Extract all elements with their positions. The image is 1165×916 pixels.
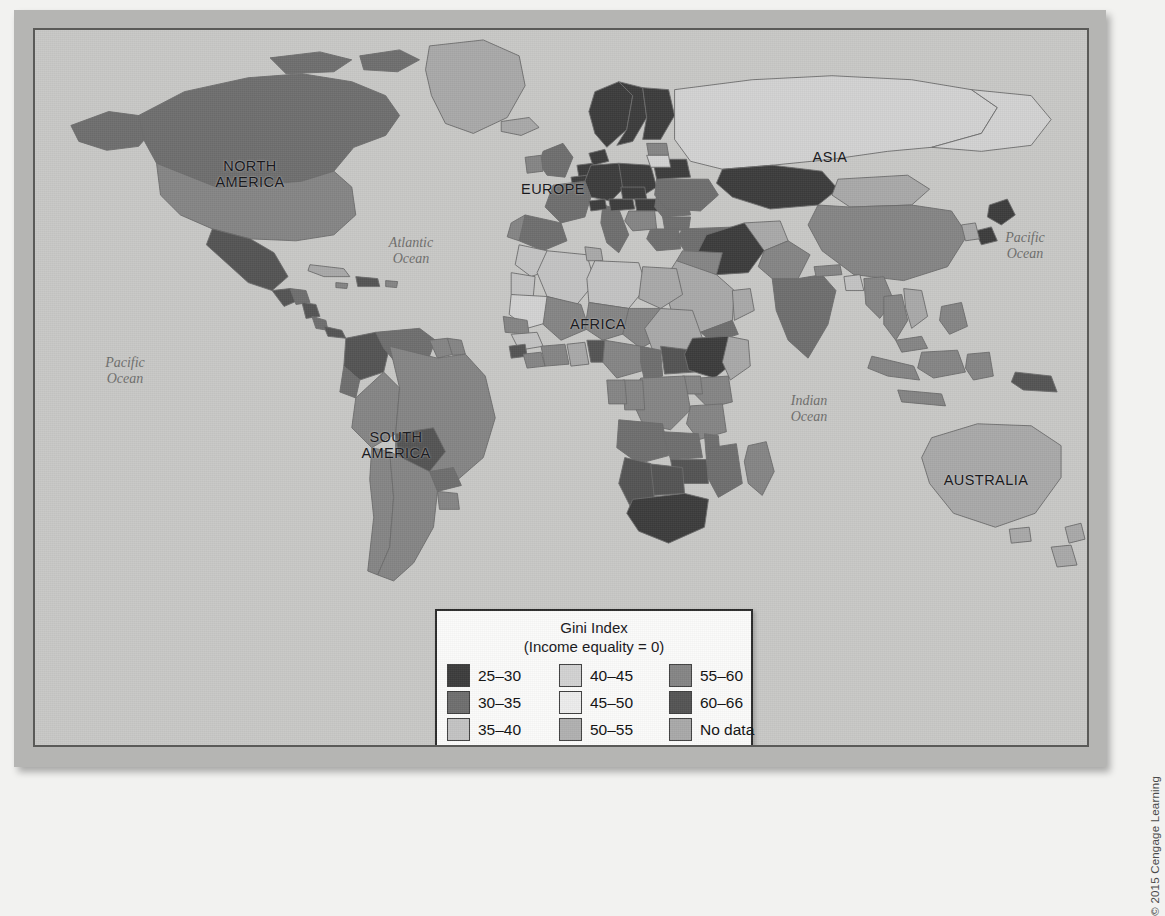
legend-item[interactable]: 40–45: [559, 664, 669, 687]
country-angola: [617, 420, 669, 464]
country-cuba: [308, 265, 350, 277]
country-jamaica: [336, 283, 348, 289]
legend-label: 25–30: [478, 665, 521, 686]
country-mozambique: [704, 444, 742, 498]
country-ireland: [525, 155, 543, 173]
legend-item[interactable]: No data: [669, 718, 765, 741]
country-hispaniola: [356, 277, 380, 287]
country-canada-arctic-2: [360, 50, 420, 72]
legend-swatch: [669, 691, 692, 714]
legend-label: 50–55: [590, 719, 633, 740]
country-south-africa: [627, 493, 709, 543]
country-greenland: [426, 40, 526, 133]
country-bangladesh: [844, 275, 864, 291]
country-canada: [139, 74, 400, 187]
legend-label: 40–45: [590, 665, 633, 686]
legend-item[interactable]: 50–55: [559, 718, 669, 741]
copyright-notice: © 2015 Cengage Learning: [1149, 776, 1161, 916]
country-mongolia: [832, 175, 930, 207]
country-indonesia-borneo: [918, 350, 966, 378]
country-thailand: [884, 295, 908, 341]
country-baltic-2: [647, 155, 671, 167]
legend-label: 30–35: [478, 692, 521, 713]
country-uruguay: [437, 491, 459, 509]
country-nepal: [814, 265, 842, 277]
country-australia: [922, 424, 1061, 527]
legend-label: 60–66: [700, 692, 743, 713]
legend-item[interactable]: 45–50: [559, 691, 669, 714]
legend-swatch: [669, 664, 692, 687]
legend-title: Gini Index (Income equality = 0): [437, 618, 751, 656]
legend-item[interactable]: 55–60: [669, 664, 765, 687]
country-czech: [621, 187, 647, 199]
country-new-zealand-north: [1065, 523, 1085, 543]
legend-swatch: [447, 691, 470, 714]
country-germany: [585, 163, 625, 201]
country-italy: [601, 205, 629, 253]
legend-label: 35–40: [478, 719, 521, 740]
country-philippines: [940, 302, 968, 334]
country-japan-1: [987, 199, 1015, 225]
country-united-kingdom: [539, 143, 573, 177]
country-indonesia-sumatra: [868, 356, 920, 380]
country-liberia: [523, 352, 545, 368]
legend-item[interactable]: 25–30: [447, 664, 559, 687]
country-oman: [732, 289, 754, 321]
country-russia: [675, 76, 998, 169]
legend-swatch: [559, 664, 582, 687]
legend-label: No data: [700, 719, 754, 740]
country-iceland: [501, 118, 539, 136]
country-ivory-coast: [541, 344, 569, 366]
legend-swatch: [669, 718, 692, 741]
country-india: [772, 275, 836, 359]
legend-label: 55–60: [700, 665, 743, 686]
country-baltic-1: [647, 143, 669, 155]
country-ghana: [567, 342, 589, 366]
legend-grid: 25–3040–4555–6030–3545–5060–6635–4050–55…: [447, 664, 751, 741]
country-cameroon: [641, 346, 663, 382]
country-papua-new-guinea: [1011, 372, 1057, 392]
legend-label: 45–50: [590, 692, 633, 713]
legend-swatch: [447, 664, 470, 687]
country-tunisia: [585, 247, 603, 261]
country-puerto-rico: [386, 281, 398, 288]
country-nigeria: [603, 340, 645, 378]
country-ukraine: [655, 179, 719, 211]
country-canada-arctic-1: [270, 52, 352, 74]
map-legend: Gini Index (Income equality = 0) 25–3040…: [435, 609, 753, 747]
country-switzerland: [589, 199, 607, 211]
country-france: [545, 181, 591, 223]
legend-swatch: [559, 691, 582, 714]
legend-item[interactable]: 30–35: [447, 691, 559, 714]
country-mali: [543, 297, 589, 341]
country-denmark: [589, 149, 609, 165]
country-greece: [647, 229, 681, 251]
world-map-figure: NORTH AMERICA SOUTH AMERICA EUROPE AFRIC…: [14, 10, 1106, 767]
country-indonesia-java: [898, 390, 946, 406]
country-panama: [324, 326, 346, 338]
country-indonesia-sulawesi: [965, 352, 993, 380]
country-new-zealand-south: [1051, 545, 1077, 567]
country-finland: [643, 88, 675, 140]
country-malaysia: [896, 336, 928, 352]
country-madagascar: [744, 442, 774, 496]
legend-swatch: [559, 718, 582, 741]
country-nicaragua: [302, 302, 320, 318]
country-libya: [587, 261, 647, 309]
country-vietnam: [904, 289, 928, 329]
legend-item[interactable]: 60–66: [669, 691, 765, 714]
country-gabon: [607, 380, 627, 404]
country-kazakhstan: [716, 165, 838, 209]
legend-item[interactable]: 35–40: [447, 718, 559, 741]
country-balkans-1: [625, 211, 657, 231]
map-plate: NORTH AMERICA SOUTH AMERICA EUROPE AFRIC…: [33, 28, 1089, 747]
legend-swatch: [447, 718, 470, 741]
country-somalia: [722, 336, 750, 380]
country-tasmania: [1009, 527, 1031, 543]
country-austria: [609, 199, 635, 211]
